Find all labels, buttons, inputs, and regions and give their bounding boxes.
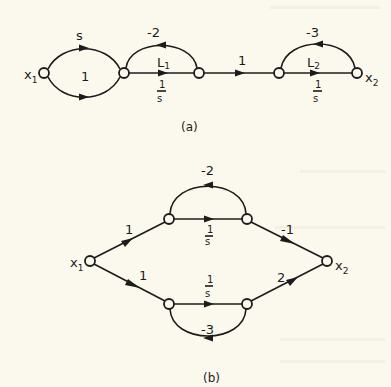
label-a-L2-name: L2 bbox=[307, 55, 320, 71]
node-b-lower-left bbox=[164, 299, 174, 309]
label-a-lower-parallel: 1 bbox=[81, 69, 89, 84]
label-a-L1-num: 1 bbox=[159, 79, 165, 90]
arrow-icon bbox=[235, 70, 245, 77]
edge-b-lower-out bbox=[251, 264, 323, 301]
arrow-icon bbox=[203, 182, 213, 189]
caption-b: (b) bbox=[203, 371, 220, 385]
figure-a: x1 x2 s 1 -2 L1 1 s 1 -3 L2 1 s (a) bbox=[24, 25, 378, 134]
node-a-4 bbox=[274, 68, 284, 78]
arrow-icon bbox=[156, 42, 166, 49]
arrow-icon bbox=[204, 216, 214, 223]
label-b-lower-in: 1 bbox=[139, 268, 147, 283]
node-b-x1 bbox=[85, 256, 95, 266]
label-b-lower-den: s bbox=[205, 288, 210, 299]
node-b-x2 bbox=[322, 256, 332, 266]
label-a-x1: x1 bbox=[24, 67, 37, 85]
label-a-loop1-feedback: -2 bbox=[147, 25, 160, 40]
label-b-upper-out: -1 bbox=[281, 222, 294, 237]
arrow-icon bbox=[79, 45, 89, 52]
node-b-upper-left bbox=[164, 214, 174, 224]
arrow-icon bbox=[121, 238, 133, 247]
bleed-through-text bbox=[270, 6, 385, 363]
node-a-x2 bbox=[352, 68, 362, 78]
node-b-upper-right bbox=[242, 214, 252, 224]
signal-flow-figure: x1 x2 s 1 -2 L1 1 s 1 -3 L2 1 s (a) bbox=[0, 0, 391, 387]
edge-b-upper-feedback bbox=[170, 186, 246, 214]
label-a-x2: x2 bbox=[365, 70, 378, 88]
caption-a: (a) bbox=[181, 120, 198, 134]
node-a-2 bbox=[119, 68, 129, 78]
label-a-middle: 1 bbox=[238, 53, 246, 68]
arrow-icon bbox=[79, 94, 89, 101]
arrow-icon bbox=[204, 301, 214, 308]
label-b-lower-out: 2 bbox=[277, 270, 285, 285]
label-b-lower-feedback: -3 bbox=[201, 322, 214, 337]
label-a-loop2-feedback: -3 bbox=[306, 25, 319, 40]
arrow-icon bbox=[286, 277, 298, 286]
label-a-L2-den: s bbox=[313, 93, 318, 104]
label-b-upper-feedback: -2 bbox=[201, 163, 214, 178]
node-a-x1 bbox=[39, 68, 49, 78]
arrow-icon bbox=[313, 41, 323, 48]
edge-a-upper-parallel bbox=[48, 49, 120, 69]
label-b-x2: x2 bbox=[335, 258, 348, 276]
label-b-lower-num: 1 bbox=[207, 274, 213, 285]
label-a-L2-num: 1 bbox=[315, 79, 321, 90]
label-a-L1-den: s bbox=[157, 93, 162, 104]
node-b-lower-right bbox=[242, 299, 252, 309]
label-a-upper-parallel: s bbox=[76, 28, 83, 43]
figure-b: x1 x2 1 1 -2 1 s 1 s -3 -1 2 (b) bbox=[70, 163, 348, 385]
node-a-3 bbox=[194, 68, 204, 78]
arrow-icon bbox=[125, 279, 140, 288]
diagram-canvas: x1 x2 s 1 -2 L1 1 s 1 -3 L2 1 s (a) bbox=[0, 0, 391, 387]
label-b-upper-den: s bbox=[205, 236, 210, 247]
label-b-upper-in: 1 bbox=[125, 222, 133, 237]
label-b-upper-num: 1 bbox=[207, 224, 213, 235]
label-b-x1: x1 bbox=[70, 255, 83, 273]
label-a-L1-name: L1 bbox=[157, 55, 170, 71]
